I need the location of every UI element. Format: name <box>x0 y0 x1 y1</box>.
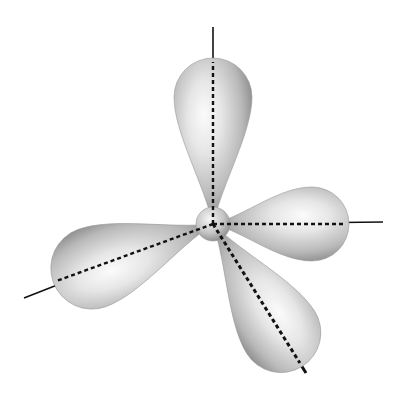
orbital-diagram: Trigonal pyramidal orbital arrangement (… <box>0 0 400 393</box>
orbital-figure <box>0 0 400 393</box>
orbital-lobes <box>39 58 349 388</box>
